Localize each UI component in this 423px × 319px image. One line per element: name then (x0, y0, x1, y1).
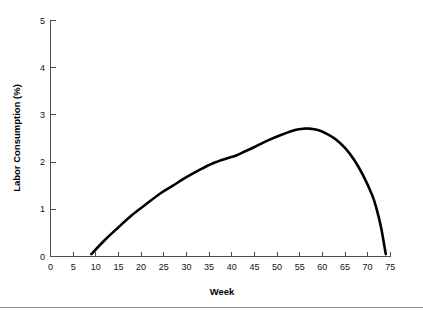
labor-consumption-curve (91, 128, 385, 254)
x-tick-label: 15 (113, 262, 123, 272)
x-tick-label: 10 (91, 262, 101, 272)
x-tick-label: 65 (340, 262, 350, 272)
line-chart: 0 1 2 3 4 5 0 (0, 0, 423, 319)
y-axis-title: Labor Consumption (%) (11, 84, 22, 192)
x-tick-label: 20 (136, 262, 146, 272)
x-axis-title: Week (210, 286, 235, 297)
y-tick-label: 1 (40, 204, 45, 214)
y-tick-marks (51, 21, 56, 257)
x-tick-label: 75 (385, 262, 395, 272)
x-tick-label: 5 (71, 262, 76, 272)
x-tick-label: 45 (249, 262, 259, 272)
x-tick-label: 30 (181, 262, 191, 272)
y-tick-label: 4 (40, 63, 45, 73)
chart-figure: 0 1 2 3 4 5 0 (0, 0, 423, 319)
x-tick-label: 0 (48, 262, 53, 272)
y-tick-label: 5 (40, 16, 45, 26)
y-tick-label: 2 (40, 157, 45, 167)
y-tick-label: 0 (40, 252, 45, 262)
x-tick-label: 25 (159, 262, 169, 272)
y-tick-labels: 0 1 2 3 4 5 (40, 16, 45, 262)
x-tick-marks (51, 252, 391, 257)
x-tick-label: 70 (363, 262, 373, 272)
x-tick-labels: 0 5 10 15 20 25 30 35 40 45 50 55 60 65 … (48, 262, 395, 272)
x-tick-label: 50 (272, 262, 282, 272)
x-tick-label: 40 (227, 262, 237, 272)
y-tick-label: 3 (40, 110, 45, 120)
x-tick-label: 55 (295, 262, 305, 272)
x-tick-label: 35 (204, 262, 214, 272)
x-tick-label: 60 (317, 262, 327, 272)
